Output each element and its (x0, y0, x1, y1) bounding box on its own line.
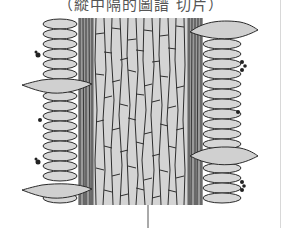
left-dense-band (78, 18, 94, 205)
right-epidermal-cells (203, 39, 241, 203)
central-elongated-cells (92, 18, 188, 205)
left-epidermal-cells (43, 19, 77, 203)
tissue-section-diagram (0, 0, 282, 228)
right-dense-band (187, 18, 203, 205)
